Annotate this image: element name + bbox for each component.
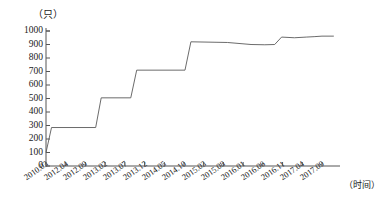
bar-chart-container: （只） （时间） 0100200300400500600700800900100… (0, 0, 391, 220)
data-series-line (46, 36, 334, 152)
line-plot-area (0, 0, 391, 220)
